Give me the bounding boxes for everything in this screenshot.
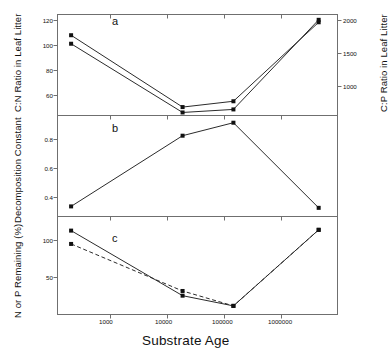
panel-c-yticks [54, 241, 58, 278]
data-point [69, 229, 73, 233]
data-series-layer [69, 18, 321, 308]
data-point [181, 294, 185, 298]
panel-c-xticks [111, 217, 282, 319]
panel-a-yticks-right [338, 21, 342, 87]
data-point [317, 228, 321, 232]
data-point [69, 242, 73, 246]
data-point [231, 107, 235, 111]
data-point [317, 206, 321, 210]
data-point [69, 42, 73, 46]
data-point [181, 110, 185, 114]
data-point [231, 99, 235, 103]
series-line [71, 20, 319, 113]
panel-a-yticks [54, 21, 58, 96]
panel-a-frame [58, 15, 338, 116]
panel-a-xticks [111, 15, 282, 19]
panel-c-frame [58, 217, 338, 315]
series-line [71, 22, 319, 107]
panel-b-xticks [111, 116, 282, 120]
panel-b-yticks [54, 140, 58, 198]
series-line [71, 123, 319, 208]
data-point [181, 134, 185, 138]
data-point [181, 289, 185, 293]
panel-b-frame [58, 116, 338, 217]
data-point [231, 121, 235, 125]
data-point [69, 204, 73, 208]
data-point [69, 33, 73, 37]
data-point [317, 18, 321, 22]
data-point [181, 105, 185, 109]
series-line [71, 230, 319, 306]
data-point [231, 304, 235, 308]
